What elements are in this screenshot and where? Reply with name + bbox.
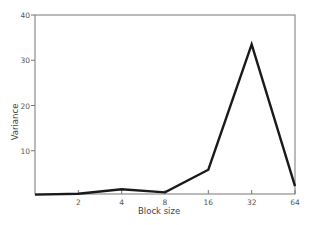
x-axis-ticks: 248163264 [76,190,300,207]
x-tick-label: 4 [119,198,124,207]
x-tick-label: 16 [204,198,214,207]
y-tick-label: 10 [20,147,30,156]
y-axis-label: Variance [10,104,20,141]
y-tick-label: 30 [20,56,30,65]
series-line-variance [35,44,295,194]
y-axis-ticks: 10203040 [20,11,35,156]
plot-frame [35,15,295,194]
x-tick-label: 2 [76,198,81,207]
line-chart: 10203040 248163264 Block size Variance [0,0,311,225]
y-tick-label: 40 [20,11,30,20]
x-axis-label: Block size [138,206,180,216]
x-tick-label: 32 [247,198,257,207]
x-tick-label: 64 [290,198,300,207]
y-tick-label: 20 [20,102,30,111]
